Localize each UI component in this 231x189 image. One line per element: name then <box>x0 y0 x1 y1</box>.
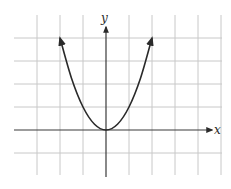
vertical-gridlines <box>37 15 221 175</box>
chart: x y <box>0 0 231 189</box>
x-axis-label: x <box>214 123 221 137</box>
horizontal-gridlines <box>14 38 222 153</box>
y-axis-label: y <box>100 11 108 25</box>
